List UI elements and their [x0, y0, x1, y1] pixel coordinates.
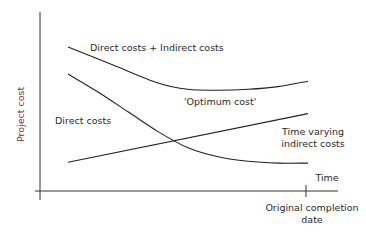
annotation-indirect-line2: indirect costs — [281, 138, 345, 149]
annotation-total-cost: Direct costs + Indirect costs — [90, 42, 224, 53]
x-tick-label-line1: Original completion — [265, 202, 358, 213]
total-cost-curve — [68, 47, 308, 90]
annotation-indirect-line1: Time varying — [281, 126, 344, 137]
chart: Project cost Time Original completion da… — [0, 0, 366, 239]
x-tick-label-line2: date — [301, 214, 323, 225]
x-axis-label: Time — [314, 172, 338, 183]
y-axis-label: Project cost — [15, 86, 26, 142]
annotation-optimum-cost: 'Optimum cost' — [184, 96, 256, 107]
annotation-direct-costs: Direct costs — [55, 115, 111, 126]
